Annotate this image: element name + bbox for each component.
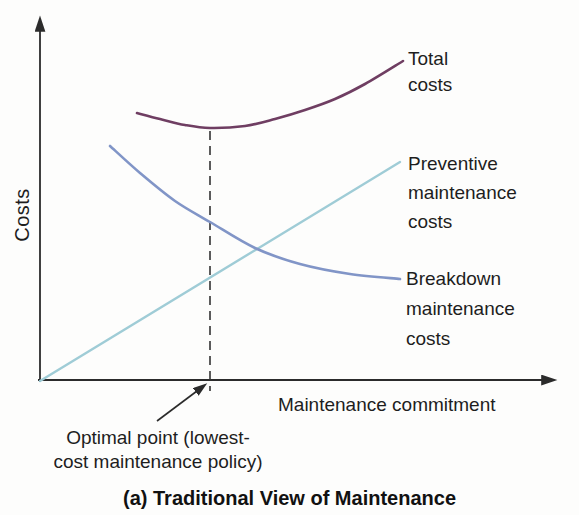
- figure-caption: (a) Traditional View of Maintenance: [0, 487, 579, 510]
- optimal-point-annotation: Optimal point (lowest- cost maintenance …: [37, 426, 279, 474]
- preventive-costs-label-line2: maintenance: [408, 178, 517, 207]
- total-costs-curve: [137, 61, 403, 128]
- breakdown-costs-label-line2: maintenance: [406, 294, 515, 324]
- breakdown-costs-label-line3: costs: [406, 324, 515, 354]
- optimal-point-pointer-arrow: [157, 391, 197, 421]
- preventive-costs-label: Preventive maintenance costs: [408, 149, 517, 236]
- optimal-point-annotation-line1: Optimal point (lowest-: [37, 426, 279, 450]
- preventive-costs-label-line1: Preventive: [408, 149, 517, 178]
- preventive-costs-label-line3: costs: [408, 207, 517, 236]
- breakdown-costs-curve: [110, 146, 400, 279]
- breakdown-costs-label: Breakdown maintenance costs: [406, 264, 515, 354]
- total-costs-label-line2: costs: [408, 72, 452, 98]
- preventive-costs-curve: [40, 162, 400, 381]
- total-costs-label: Total costs: [408, 46, 452, 98]
- x-axis-label: Maintenance commitment: [278, 394, 496, 416]
- optimal-point-annotation-line2: cost maintenance policy): [37, 450, 279, 474]
- breakdown-costs-label-line1: Breakdown: [406, 264, 515, 294]
- total-costs-label-line1: Total: [408, 46, 452, 72]
- y-axis-label: Costs: [11, 188, 34, 242]
- maintenance-cost-figure: Costs Maintenance commitment Total costs…: [0, 0, 579, 515]
